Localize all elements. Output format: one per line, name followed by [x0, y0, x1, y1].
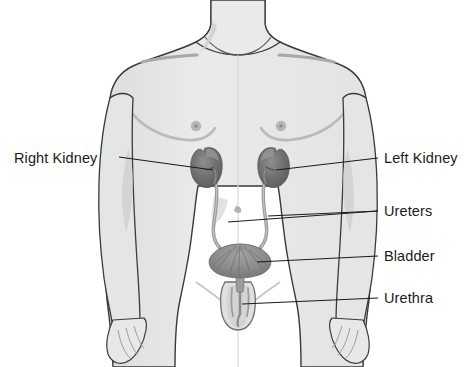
navel — [234, 206, 241, 213]
anatomy-illustration — [0, 0, 476, 367]
neck — [196, 0, 280, 55]
diagram-canvas: Right Kidney Left Kidney Ureters Bladder… — [0, 0, 476, 367]
label-right-kidney: Right Kidney — [14, 151, 97, 166]
left-nipple-center — [279, 124, 283, 128]
label-ureters: Ureters — [384, 204, 432, 219]
label-left-kidney: Left Kidney — [384, 151, 458, 166]
label-urethra: Urethra — [384, 291, 433, 306]
label-bladder: Bladder — [384, 249, 435, 264]
body-figure — [99, 0, 378, 367]
left-kidney-organ — [258, 148, 290, 188]
bladder-organ — [209, 244, 271, 292]
right-nipple-center — [194, 124, 198, 128]
